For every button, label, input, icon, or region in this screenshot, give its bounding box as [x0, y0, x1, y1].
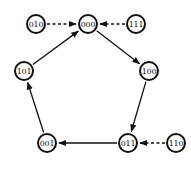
state-node-label: 010: [29, 20, 43, 29]
state-node-110: 110: [166, 133, 186, 153]
edge-000-to-100: [97, 31, 140, 64]
edge-100-to-011: [131, 82, 146, 132]
edge-101-to-000: [33, 31, 78, 64]
edges: [28, 24, 165, 143]
state-node-label: 000: [81, 20, 95, 29]
state-node-label: 101: [17, 67, 31, 76]
state-node-010: 010: [26, 14, 46, 34]
state-node-000: 000: [78, 14, 98, 34]
state-node-label: 011: [121, 139, 135, 148]
state-node-label: 111: [129, 20, 143, 29]
state-node-111: 111: [126, 14, 146, 34]
state-node-label: 100: [142, 67, 156, 76]
state-node-011: 011: [118, 133, 138, 153]
edge-001-to-101: [28, 82, 44, 132]
state-node-101: 101: [14, 61, 34, 81]
state-node-100: 100: [139, 61, 159, 81]
state-node-label: 110: [169, 139, 183, 148]
state-node-001: 001: [37, 133, 57, 153]
state-node-label: 001: [40, 139, 54, 148]
